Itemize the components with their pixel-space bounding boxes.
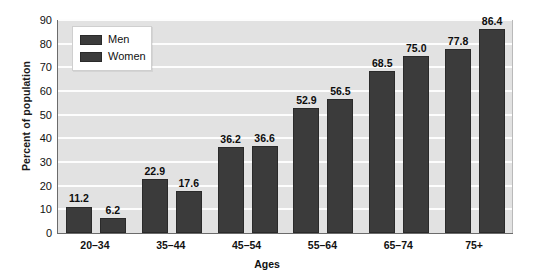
- bar: [293, 108, 319, 233]
- legend-item-label: Women: [108, 51, 146, 62]
- bar: [327, 99, 353, 233]
- bar-value-label: 36.6: [254, 133, 274, 144]
- y-axis-tick: 20: [24, 180, 52, 191]
- bar: [369, 71, 395, 233]
- bar: [100, 218, 126, 233]
- y-axis-tick: 60: [24, 86, 52, 97]
- y-axis-tick: 30: [24, 157, 52, 168]
- x-axis-tick: 35–44: [156, 239, 185, 251]
- y-axis-tick: 70: [24, 62, 52, 73]
- y-axis-tick: 80: [24, 38, 52, 49]
- y-axis-tick: 10: [24, 204, 52, 215]
- x-axis-title: Ages: [0, 258, 534, 270]
- bar-value-label: 11.2: [69, 193, 89, 204]
- legend-item: Women: [80, 49, 145, 64]
- bar-value-label: 6.2: [106, 205, 121, 216]
- bar: [66, 207, 92, 234]
- bar-value-label: 56.5: [330, 86, 350, 97]
- bar: [252, 146, 278, 233]
- bar-value-label: 36.2: [220, 134, 240, 145]
- y-axis-tick-labels: 0102030405060708090: [24, 0, 52, 280]
- bar-chart: Percent of population 010203040506070809…: [0, 0, 534, 280]
- bar-value-label: 77.8: [448, 36, 468, 47]
- bar: [142, 179, 168, 233]
- bar-value-label: 75.0: [406, 43, 426, 54]
- bar: [403, 56, 429, 234]
- x-axis-tick: 75+: [465, 239, 483, 251]
- bar-value-label: 17.6: [179, 178, 199, 189]
- x-axis-line: [57, 233, 513, 234]
- plot-right-edge: [512, 20, 513, 233]
- y-axis-tick: 50: [24, 109, 52, 120]
- chart-legend: MenWomen: [72, 26, 152, 71]
- x-axis-tick: 45–54: [232, 239, 261, 251]
- legend-swatch-icon: [80, 52, 102, 62]
- x-axis-tick: 55–64: [308, 239, 337, 251]
- bar-value-label: 68.5: [372, 58, 392, 69]
- legend-item-label: Men: [108, 34, 129, 45]
- bar: [218, 147, 244, 233]
- y-axis-tick: 90: [24, 15, 52, 26]
- bar: [479, 29, 505, 233]
- y-axis-tick: 40: [24, 133, 52, 144]
- bar: [445, 49, 471, 233]
- legend-swatch-icon: [80, 35, 102, 45]
- bar: [176, 191, 202, 233]
- bar-value-label: 22.9: [145, 166, 165, 177]
- y-axis-tick: 0: [24, 228, 52, 239]
- bar-value-label: 86.4: [482, 16, 502, 27]
- legend-item: Men: [80, 32, 145, 47]
- x-axis-tick: 65–74: [384, 239, 413, 251]
- bar-value-label: 52.9: [296, 95, 316, 106]
- x-axis-tick: 20–34: [80, 239, 109, 251]
